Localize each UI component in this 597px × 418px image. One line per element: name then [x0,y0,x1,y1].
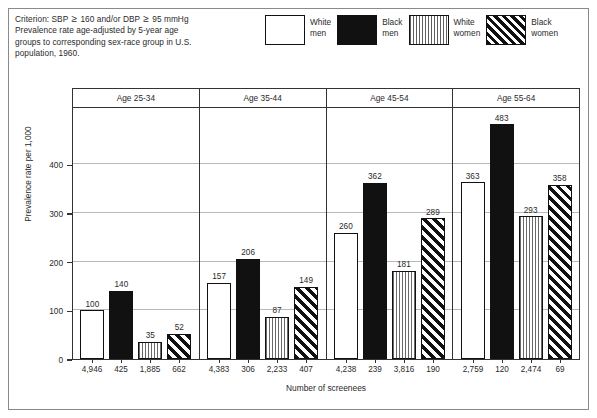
age-group-header-row: Age 25-34Age 35-44Age 45-54Age 55-64 [73,89,579,108]
x-axis-tick-mark [306,359,307,363]
x-axis-tick-mark [404,359,405,363]
greater-equal-icon-1: ≥ [70,13,78,24]
x-axis-tick-mark [433,359,434,363]
x-axis-tick: 1,885 [138,360,162,378]
bar-item: 206 [236,259,260,359]
bar [167,334,191,359]
bar-value-label: 157 [212,272,226,281]
chart-legend: White menBlack menWhite womenBlack women [265,15,587,63]
bar [392,271,416,359]
legend-item-label: Black women [531,15,558,39]
x-axis-tick: 2,233 [265,360,289,378]
bar [109,291,133,359]
x-axis-tick: 239 [363,360,387,378]
age-group-header: Age 35-44 [200,89,327,107]
bar-value-label: 35 [146,331,155,340]
bar-item: 52 [167,334,191,359]
bar [519,216,543,359]
bar-item: 362 [363,183,387,359]
caption-line-1: Criterion: SBP ≥ 160 and/or DBP ≥ 95 mmH… [15,13,265,25]
bar [207,283,231,359]
bar-value-label: 206 [241,248,255,257]
bar-item: 289 [421,218,445,359]
x-axis-tick: 4,383 [207,360,231,378]
gridline [200,163,326,164]
bar-value-label: 362 [368,172,382,181]
caption-line-3: groups to corresponding sex-race group i… [15,37,265,49]
x-axis-tick-mark [179,359,180,363]
bar [421,218,445,359]
bar-value-label: 52 [175,323,184,332]
y-axis-tick-label: 0 [58,355,63,365]
x-axis-group: 4,3833062,233407 [199,360,326,378]
bar [236,259,260,359]
caption-line-1-mid: 160 and/or DBP [78,14,142,24]
y-axis-tick-label: 400 [49,160,63,170]
x-axis-tick-mark [277,359,278,363]
y-axis-tick: 0 [58,355,72,365]
y-axis-tick-mark [67,213,72,214]
bar-item: 358 [548,185,572,359]
bar [294,287,318,359]
bar-value-label: 87 [273,306,282,315]
x-axis-tick-mark [92,359,93,363]
bar-item: 483 [490,124,514,359]
legend-item: Black men [337,15,402,45]
age-group-header: Age 45-54 [327,89,454,107]
age-group-header: Age 55-64 [453,89,579,107]
x-axis-group: 2,7591202,47469 [453,360,580,378]
y-axis-label: Prevalence rate per 1,000 [23,79,33,269]
caption-line-1-post: 95 mmHg [150,14,189,24]
bar-item: 260 [334,233,358,360]
x-axis-tick: 3,816 [392,360,416,378]
x-axis-tick-mark [473,359,474,363]
bar [265,317,289,359]
bar-group: 1001403552 [80,291,191,359]
bar-item: 181 [392,271,416,359]
bar-item: 363 [461,182,485,359]
y-axis-tick: 400 [49,160,72,170]
greater-equal-icon-2: ≥ [142,13,150,24]
legend-item-label: White women [454,15,481,39]
bar-value-label: 293 [524,206,538,215]
bar [490,124,514,359]
bar-value-label: 140 [115,280,129,289]
gridline [200,212,326,213]
legend-item-label: White men [310,15,331,39]
x-axis-tick-mark [531,359,532,363]
x-axis-tick: 662 [167,360,191,378]
legend-item-label: Black men [382,15,402,39]
x-axis-tick: 2,474 [519,360,543,378]
legend-item: White men [265,15,331,45]
y-axis-tick-label: 200 [49,258,63,268]
white-box-swatch [265,15,305,45]
bar-value-label: 149 [299,276,313,285]
gridline [327,163,453,164]
bar-group: 15720687149 [207,259,318,359]
x-axis-tick: 2,759 [461,360,485,378]
bar [461,182,485,359]
bar [80,310,104,359]
x-axis-tick-mark [560,359,561,363]
x-axis-tick: 407 [294,360,318,378]
y-axis-tick: 300 [49,209,72,219]
bar [363,183,387,359]
x-axis-screenee-labels: 4,9464251,8856624,3833062,2334074,238239… [72,360,580,378]
x-axis-tick: 190 [421,360,445,378]
bar-group: 260362181289 [334,183,445,359]
x-axis-tick: 120 [490,360,514,378]
bar-item: 157 [207,283,231,359]
bar-value-label: 363 [466,172,480,181]
legend-item: White women [409,15,481,45]
age-group-column: 260362181289 [327,108,454,359]
age-group-column: 363483293358 [453,108,579,359]
x-axis-tick-mark [248,359,249,363]
x-axis-tick: 4,238 [334,360,358,378]
y-axis-tick: 200 [49,258,72,268]
bar [334,233,358,360]
y-axis-ticks: 0100200300400 [9,107,72,360]
x-axis-tick: 4,946 [80,360,104,378]
x-axis-tick-mark [150,359,151,363]
bar-item: 100 [80,310,104,359]
gridline [73,261,199,262]
